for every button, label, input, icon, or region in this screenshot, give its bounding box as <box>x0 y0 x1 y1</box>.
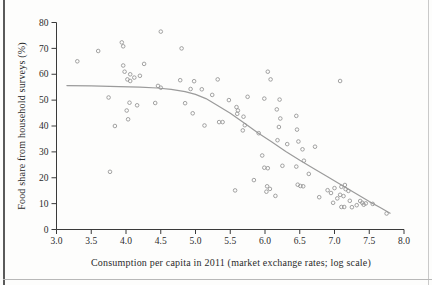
data-point <box>275 108 279 112</box>
data-point <box>269 78 273 82</box>
y-tick-label: 0 <box>44 225 49 235</box>
data-point <box>329 191 333 195</box>
data-point <box>281 164 285 168</box>
data-point <box>265 190 269 194</box>
data-point <box>138 74 142 78</box>
data-point <box>125 109 129 113</box>
data-point <box>216 78 220 82</box>
x-tick-label: 8.0 <box>398 236 410 246</box>
x-tick-label: 5.5 <box>224 236 236 246</box>
scatter-plot: 010203040506070803.03.54.04.55.05.56.06.… <box>0 0 432 285</box>
data-point <box>142 62 146 66</box>
data-point <box>180 47 184 51</box>
data-point <box>276 138 280 142</box>
data-point <box>279 117 283 121</box>
data-point <box>350 205 354 209</box>
data-point <box>338 79 342 83</box>
data-point <box>189 87 193 91</box>
data-point <box>326 188 330 192</box>
data-point <box>241 129 245 133</box>
data-point <box>121 64 125 68</box>
data-point <box>333 186 337 190</box>
data-point <box>178 78 182 82</box>
data-point <box>252 178 256 182</box>
data-point <box>274 194 278 198</box>
data-point <box>183 101 187 105</box>
data-point <box>76 60 80 64</box>
data-point <box>313 145 317 149</box>
data-point <box>126 118 130 122</box>
x-tick-label: 4.5 <box>155 236 167 246</box>
data-point <box>121 45 125 49</box>
y-axis-label: Food share from household surveys (%) <box>16 42 27 210</box>
data-point <box>159 30 163 34</box>
x-tick-label: 6.5 <box>294 236 306 246</box>
x-tick-label: 7.0 <box>329 236 341 246</box>
y-tick-label: 10 <box>39 199 49 209</box>
data-point <box>191 112 195 116</box>
x-tick-label: 5.0 <box>190 236 202 246</box>
data-point <box>260 154 264 158</box>
x-tick-label: 7.5 <box>363 236 375 246</box>
x-tick-label: 3.5 <box>85 236 97 246</box>
data-point <box>107 96 111 100</box>
data-point <box>277 125 281 129</box>
data-point <box>123 70 127 74</box>
data-point <box>96 49 100 53</box>
data-point <box>331 201 335 205</box>
data-point <box>203 124 207 128</box>
y-tick-label: 70 <box>39 44 49 54</box>
data-point <box>266 166 270 170</box>
data-point <box>307 172 311 176</box>
y-tick-label: 30 <box>39 147 49 157</box>
data-point <box>192 79 196 83</box>
data-point <box>301 148 305 152</box>
data-point <box>278 98 282 102</box>
data-point <box>266 70 270 74</box>
x-tick-label: 6.0 <box>259 236 271 246</box>
x-tick-label: 4.0 <box>120 236 132 246</box>
data-point <box>200 88 204 92</box>
data-point <box>336 197 340 201</box>
x-tick-label: 3.0 <box>51 236 63 246</box>
data-point <box>233 189 237 193</box>
x-axis-label: Consumption per capita in 2011 (market e… <box>91 257 371 268</box>
data-point <box>297 140 301 144</box>
data-point <box>246 95 250 99</box>
data-point <box>227 98 231 102</box>
y-tick-label: 80 <box>39 18 49 28</box>
data-point <box>295 128 299 132</box>
data-point <box>285 142 289 146</box>
y-tick-label: 20 <box>39 173 49 183</box>
data-point <box>108 170 112 174</box>
y-tick-label: 40 <box>39 121 49 131</box>
data-point <box>263 166 267 170</box>
y-tick-label: 50 <box>39 95 49 105</box>
data-point <box>242 115 246 119</box>
axis-lines <box>57 23 405 230</box>
data-point <box>342 194 346 198</box>
data-point <box>210 93 214 97</box>
figure-page: 010203040506070803.03.54.04.55.05.56.06.… <box>0 0 432 285</box>
y-tick-label: 60 <box>39 69 49 79</box>
data-point <box>113 124 117 128</box>
data-point <box>128 73 132 77</box>
data-point <box>268 187 272 191</box>
data-point <box>153 101 157 105</box>
data-point <box>317 195 321 199</box>
data-point <box>135 104 139 108</box>
data-point <box>343 183 347 187</box>
data-point <box>133 76 137 80</box>
data-point <box>120 41 124 45</box>
data-point <box>385 212 389 216</box>
data-point <box>348 199 352 203</box>
data-point <box>263 97 267 101</box>
data-point <box>128 101 132 105</box>
data-point <box>355 203 359 207</box>
data-point <box>295 114 299 118</box>
data-point <box>295 165 299 169</box>
